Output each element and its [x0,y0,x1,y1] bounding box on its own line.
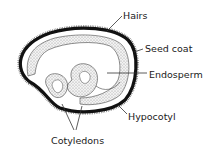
label-endosperm: Endosperm [149,69,203,80]
label-cotyledons: Cotyledons [51,135,104,146]
seed-diagram: Hairs Seed coat Endosperm Hypocotyl Coty… [0,0,212,155]
label-hypocotyl: Hypocotyl [128,111,176,122]
label-seed-coat: Seed coat [145,43,193,54]
label-hairs: Hairs [123,10,148,21]
leader-hypocotyl [118,105,127,114]
leader-hairs [106,16,122,32]
